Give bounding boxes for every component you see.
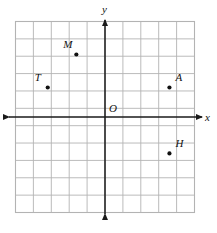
origin-label: O	[109, 103, 117, 114]
data-point-a	[167, 85, 171, 89]
coordinate-grid-svg	[0, 0, 217, 233]
point-label-m: M	[63, 39, 72, 50]
point-label-a: A	[175, 72, 182, 83]
x-axis-label: x	[205, 112, 210, 123]
point-label-t: T	[35, 72, 41, 83]
axis-lines	[9, 20, 202, 214]
data-point-t	[46, 85, 50, 89]
data-point-h	[167, 151, 171, 155]
data-point-m	[74, 52, 78, 56]
y-axis-label: y	[102, 4, 107, 15]
point-label-h: H	[175, 138, 183, 149]
coordinate-plane-figure: y x O M T A H	[0, 0, 217, 233]
